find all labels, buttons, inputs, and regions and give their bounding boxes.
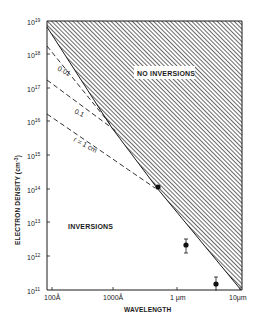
data-point — [155, 184, 160, 189]
svg-text:1000Å: 1000Å — [103, 293, 124, 301]
curve-label-0.01: 0.01 — [57, 65, 72, 78]
svg-text:1018: 1018 — [27, 50, 41, 59]
x-axis-title: WAVELENGTH — [124, 306, 171, 313]
data-point-with-error-bar — [183, 239, 188, 253]
curve-label-0.1: 0.1 — [74, 108, 86, 119]
svg-text:1012: 1012 — [27, 252, 41, 261]
svg-text:1 μm: 1 μm — [170, 294, 186, 302]
y-axis-title: ELECTRON DENSITY (cm-3) — [13, 155, 23, 245]
svg-text:1014: 1014 — [27, 185, 41, 194]
svg-text:100Å: 100Å — [44, 293, 61, 301]
no-inversions-region — [47, 21, 242, 290]
svg-text:1011: 1011 — [27, 286, 40, 295]
y-tick-labels: 1019 1018 1017 1016 1015 1014 1013 1012 … — [27, 17, 41, 295]
electron-density-wavelength-chart: NO INVERSIONS 0.01 0.1 r = 1 cm INVERSIO… — [0, 0, 260, 323]
svg-text:1017: 1017 — [27, 84, 41, 93]
svg-text:1016: 1016 — [27, 117, 41, 126]
x-tick-labels: 100Å 1000Å 1 μm 10μm — [44, 293, 247, 302]
svg-text:1013: 1013 — [27, 218, 41, 227]
curve-label-r1: r = 1 cm — [73, 136, 99, 154]
data-point-with-error-bar — [213, 277, 218, 291]
svg-text:1019: 1019 — [27, 17, 41, 26]
svg-text:1015: 1015 — [27, 151, 41, 160]
no-inversions-label: NO INVERSIONS — [137, 70, 195, 77]
inversions-label: INVERSIONS — [68, 223, 113, 230]
svg-text:10μm: 10μm — [229, 294, 247, 302]
